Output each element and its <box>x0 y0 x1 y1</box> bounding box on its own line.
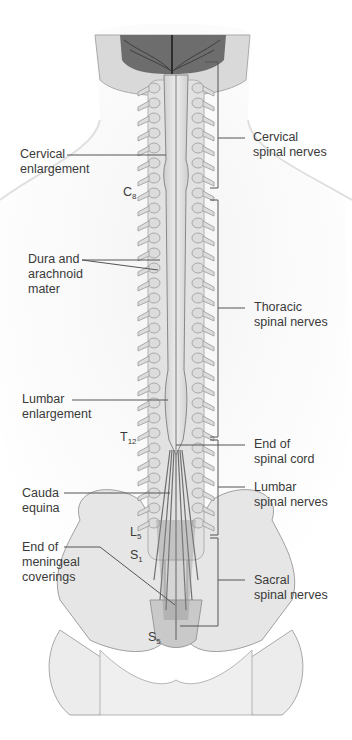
label-end-of-spinal-cord: End of spinal cord <box>254 437 314 467</box>
label-cervical-enlargement: Cervical enlargement <box>20 147 90 177</box>
marker-t12: T12 <box>120 430 137 446</box>
label-lumbar-spinal-nerves: Lumbar spinal nerves <box>254 480 328 510</box>
label-sacral-spinal-nerves: Sacral spinal nerves <box>254 573 328 603</box>
spinal-cord-illustration <box>0 0 352 740</box>
label-lumbar-enlargement: Lumbar enlargement <box>22 392 92 422</box>
marker-c8: C8 <box>123 185 136 201</box>
label-end-meningeal-coverings: End of meningeal coverings <box>22 540 80 585</box>
label-cervical-spinal-nerves: Cervical spinal nerves <box>253 130 327 160</box>
marker-l5: L5 <box>130 525 141 541</box>
label-cauda-equina: Cauda equina <box>22 486 60 516</box>
label-thoracic-spinal-nerves: Thoracic spinal nerves <box>254 300 328 330</box>
marker-s5: S5 <box>148 630 161 646</box>
spinal-cord <box>164 75 189 455</box>
marker-s1: S1 <box>130 548 143 564</box>
label-dura-arachnoid: Dura and arachnoid mater <box>28 252 83 297</box>
